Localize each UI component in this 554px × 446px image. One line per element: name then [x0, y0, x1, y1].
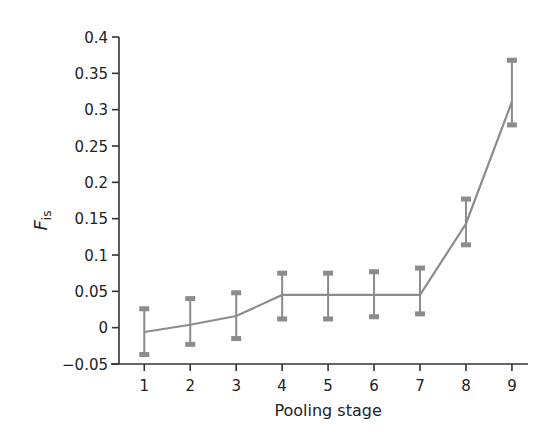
fis-chart: −0.0500.050.10.150.20.250.30.350.4 12345… [0, 0, 554, 446]
x-tick-label: 2 [185, 377, 195, 395]
x-axis-label: Pooling stage [274, 401, 381, 420]
x-tick-label: 8 [461, 377, 471, 395]
x-ticks: 123456789 [140, 364, 517, 395]
error-cap-lower [231, 336, 241, 341]
error-bars [139, 58, 517, 357]
y-tick-label: 0.35 [75, 65, 108, 83]
y-tick-label: −0.05 [62, 356, 108, 374]
error-cap-upper [139, 306, 149, 311]
error-cap-lower [461, 242, 471, 247]
y-tick-label: 0.1 [84, 247, 108, 265]
y-axis-label-subscript: is [40, 211, 54, 221]
x-tick-label: 3 [231, 377, 241, 395]
x-tick-label: 4 [277, 377, 287, 395]
y-tick-label: 0.3 [84, 101, 108, 119]
y-tick-label: 0.05 [75, 283, 108, 301]
error-cap-upper [369, 269, 379, 274]
y-ticks: −0.0500.050.10.150.20.250.30.350.4 [62, 29, 119, 374]
x-tick-label: 6 [369, 377, 379, 395]
error-cap-upper [277, 271, 287, 276]
y-axis-label: Fis [30, 211, 54, 231]
error-cap-upper [323, 271, 333, 276]
y-tick-label: 0.25 [75, 138, 108, 156]
error-cap-upper [507, 58, 517, 63]
y-tick-label: 0.15 [75, 210, 108, 228]
y-tick-label: 0 [98, 319, 108, 337]
x-tick-label: 1 [140, 377, 150, 395]
error-cap-upper [415, 266, 425, 271]
x-tick-label: 7 [415, 377, 425, 395]
x-tick-label: 5 [323, 377, 333, 395]
error-cap-lower [415, 311, 425, 316]
error-cap-upper [185, 296, 195, 301]
error-cap-lower [185, 342, 195, 347]
y-tick-label: 0.2 [84, 174, 108, 192]
y-tick-label: 0.4 [84, 29, 108, 47]
error-cap-lower [139, 352, 149, 357]
error-cap-lower [369, 314, 379, 319]
error-cap-upper [461, 197, 471, 202]
error-cap-upper [231, 290, 241, 295]
x-tick-label: 9 [507, 377, 517, 395]
error-cap-lower [277, 316, 287, 321]
error-cap-lower [507, 122, 517, 127]
error-cap-lower [323, 316, 333, 321]
y-axis-label-main: F [30, 219, 51, 230]
